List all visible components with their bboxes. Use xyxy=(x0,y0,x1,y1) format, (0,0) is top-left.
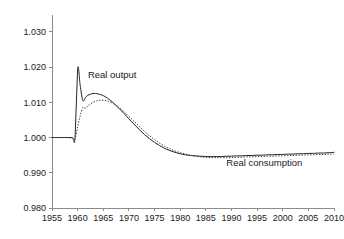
x-tick-label: 2005 xyxy=(298,213,318,223)
y-tick-label: 1.000 xyxy=(23,133,46,143)
x-tick-label: 1995 xyxy=(247,213,267,223)
series-line-real-consumption xyxy=(52,100,334,157)
series-annotations: Real outputReal consumption xyxy=(88,69,302,167)
x-tick-label: 2010 xyxy=(324,213,344,223)
x-tick-label: 1970 xyxy=(119,213,139,223)
x-tick-label: 1985 xyxy=(196,213,216,223)
y-tick-label: 1.030 xyxy=(23,27,46,37)
y-axis-tick-labels: 0.9800.9901.0001.0101.0201.030 xyxy=(23,27,46,213)
line-chart: 0.9800.9901.0001.0101.0201.030 195519601… xyxy=(0,0,344,239)
x-tick-label: 1990 xyxy=(221,213,241,223)
y-tick-label: 1.010 xyxy=(23,98,46,108)
x-tick-label: 1955 xyxy=(42,213,62,223)
y-tick-label: 1.020 xyxy=(23,62,46,72)
x-tick-label: 1975 xyxy=(145,213,165,223)
chart-figure: 0.9800.9901.0001.0101.0201.030 195519601… xyxy=(0,0,344,239)
y-tick-label: 0.990 xyxy=(23,168,46,178)
x-axis-tick-labels: 1955196019651970197519801985199019952000… xyxy=(42,213,344,223)
x-tick-label: 1960 xyxy=(68,213,88,223)
x-tick-label: 1980 xyxy=(170,213,190,223)
series-annotation-label: Real consumption xyxy=(226,157,302,168)
x-tick-label: 1965 xyxy=(93,213,113,223)
x-tick-label: 2000 xyxy=(273,213,293,223)
series-annotation-label: Real output xyxy=(88,69,137,80)
y-tick-label: 0.980 xyxy=(23,203,46,213)
